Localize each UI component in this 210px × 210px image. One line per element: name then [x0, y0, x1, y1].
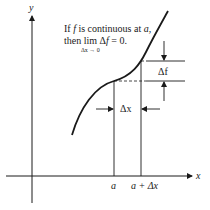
delta-f-label: Δf — [158, 66, 168, 77]
continuity-diagram: x y Δf Δx a a + Δx If f is continuous at… — [0, 0, 210, 210]
delta-x-label: Δx — [120, 103, 131, 114]
y-axis-label: y — [28, 2, 34, 13]
x-axis-label: x — [195, 170, 201, 181]
caption-line-2: then lim Δf = 0. — [64, 35, 127, 46]
tick-label-a: a — [111, 180, 116, 191]
caption-limit-subscript: Δx → 0 — [81, 47, 100, 53]
caption-line-1: If f is continuous at a, — [64, 23, 151, 34]
tick-label-a-plus-dx: a + Δx — [131, 180, 159, 191]
